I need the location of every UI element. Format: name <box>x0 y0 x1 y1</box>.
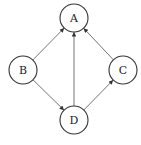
node-a: A <box>60 4 88 32</box>
node-label: D <box>70 114 79 127</box>
edges-layer <box>33 28 114 110</box>
edge-b-to-d <box>33 80 64 110</box>
node-b: B <box>9 56 37 84</box>
edge-d-to-c <box>84 80 113 110</box>
node-label: C <box>119 64 127 77</box>
edge-c-to-a <box>84 28 114 60</box>
nodes-layer: ABCD <box>9 4 137 134</box>
edge-b-to-a <box>33 28 64 60</box>
node-c: C <box>109 56 137 84</box>
node-d: D <box>60 106 88 134</box>
graph-canvas: ABCD <box>0 0 141 145</box>
node-label: A <box>69 12 79 25</box>
node-label: B <box>19 64 27 77</box>
